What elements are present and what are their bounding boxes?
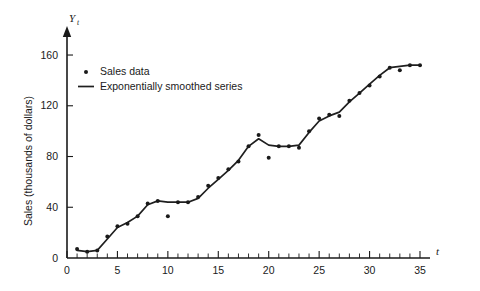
sales-exponential-smoothing-chart: 0408012016005101520253035 Sales dataExpo… — [0, 0, 480, 291]
sales-data-point — [226, 167, 230, 171]
y-axis-symbol-subscript: t — [77, 18, 80, 27]
sales-data-point — [95, 248, 99, 252]
axes-layer: 0408012016005101520253035 — [40, 26, 430, 276]
sales-data-point — [85, 250, 89, 254]
labels-layer: YttSales (thousands of dollars) — [22, 12, 440, 257]
y-tick-label-0: 0 — [52, 252, 58, 264]
y-tick-label-80: 80 — [46, 150, 58, 162]
sales-data-point — [408, 63, 412, 67]
sales-data-point — [267, 156, 271, 160]
sales-data-point — [357, 91, 361, 95]
sales-data-point — [327, 113, 331, 117]
x-tick-label-20: 20 — [263, 264, 275, 276]
sales-data-point — [368, 83, 372, 87]
sales-data-point — [297, 146, 301, 150]
x-tick-label-0: 0 — [64, 264, 70, 276]
chart-screenshot: 0408012016005101520253035 Sales dataExpo… — [0, 0, 480, 291]
sales-data-point — [347, 99, 351, 103]
sales-data-point — [216, 176, 220, 180]
sales-data-point — [236, 160, 240, 164]
legend-marker-dot-icon — [84, 70, 88, 74]
sales-data-point — [247, 144, 251, 148]
sales-data-point — [186, 200, 190, 204]
x-tick-label-15: 15 — [212, 264, 224, 276]
sales-data-point — [156, 199, 160, 203]
sales-data-point — [136, 214, 140, 218]
y-axis-symbol: Y — [69, 12, 77, 24]
sales-data-point — [146, 201, 150, 205]
x-tick-label-5: 5 — [115, 264, 121, 276]
y-tick-label-40: 40 — [46, 201, 58, 213]
sales-data-point — [166, 214, 170, 218]
sales-data-point — [277, 144, 281, 148]
sales-data-point — [115, 224, 119, 228]
sales-data-point — [105, 234, 109, 238]
legend-label-1: Sales data — [100, 65, 150, 77]
sales-data-point — [388, 66, 392, 70]
x-tick-label-35: 35 — [414, 264, 426, 276]
legend-layer: Sales dataExponentially smoothed series — [78, 65, 242, 92]
sales-data-point — [176, 200, 180, 204]
x-tick-label-30: 30 — [364, 264, 376, 276]
x-tick-label-10: 10 — [162, 264, 174, 276]
sales-data-point — [317, 116, 321, 120]
x-tick-label-25: 25 — [313, 264, 325, 276]
sales-data-point — [206, 184, 210, 188]
sales-data-point — [75, 247, 79, 251]
y-tick-label-160: 160 — [40, 49, 58, 61]
sales-data-point — [257, 133, 261, 137]
x-axis-label: t — [436, 245, 440, 257]
sales-data-point — [307, 129, 311, 133]
sales-data-point — [196, 195, 200, 199]
y-tick-label-120: 120 — [40, 99, 58, 111]
legend-label-2: Exponentially smoothed series — [100, 80, 242, 92]
sales-data-point — [398, 68, 402, 72]
y-axis-title: Sales (thousands of dollars) — [22, 96, 34, 226]
sales-data-point — [126, 222, 130, 226]
sales-data-point — [287, 144, 291, 148]
y-axis-arrow-icon — [63, 26, 71, 37]
sales-data-point — [337, 114, 341, 118]
sales-data-point — [378, 75, 382, 79]
sales-data-point — [418, 63, 422, 67]
